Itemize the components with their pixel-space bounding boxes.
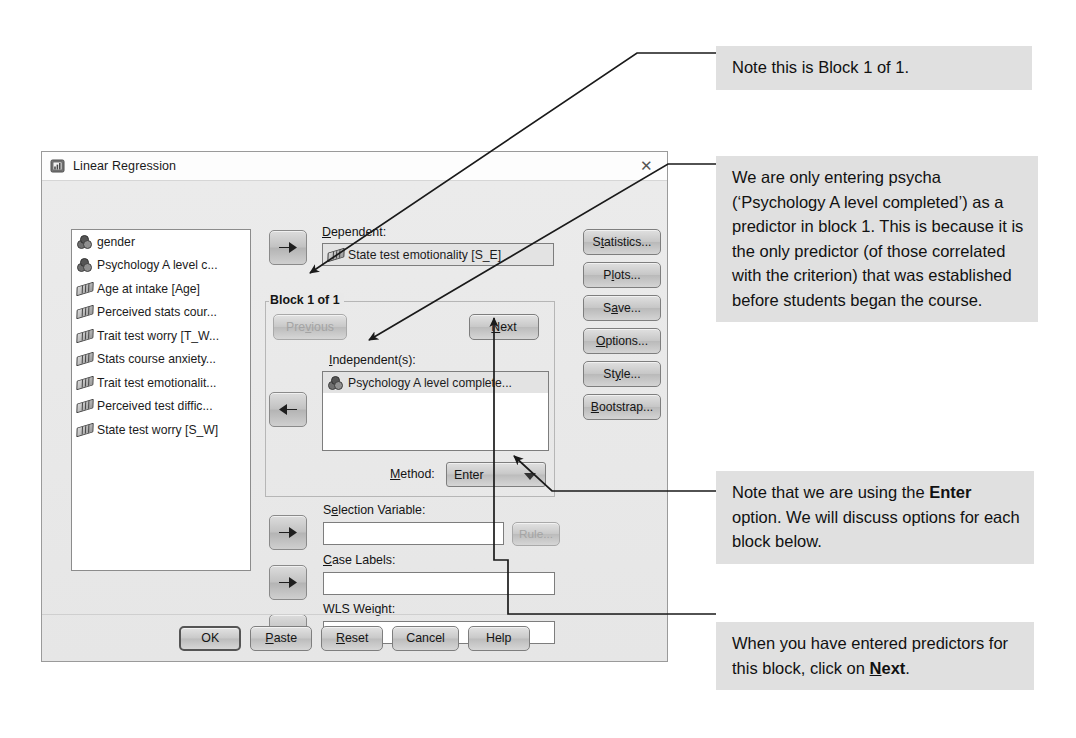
bootstrap-button[interactable]: Bootstrap... [583, 394, 661, 420]
independent-label: Independent(s): [329, 353, 416, 367]
note-enter: Note that we are using the Enter option.… [716, 471, 1034, 564]
list-item[interactable]: Perceived test diffic... [72, 395, 250, 419]
scale-variable-icon [77, 282, 92, 296]
list-item[interactable]: Perceived stats cour... [72, 301, 250, 325]
list-item[interactable]: Trait test worry [T_W... [72, 324, 250, 348]
scale-variable-icon [77, 329, 92, 343]
dependent-field[interactable]: State test emotionality [S_E] [322, 243, 554, 266]
variable-label: State test worry [S_W] [97, 423, 218, 437]
help-button[interactable]: Help [468, 626, 530, 651]
scale-variable-icon [328, 248, 343, 262]
variable-label: Perceived stats cour... [97, 305, 217, 319]
scale-variable-icon [77, 423, 92, 437]
scale-variable-icon [77, 352, 92, 366]
variable-label: Trait test emotionalit... [97, 376, 216, 390]
variable-label: Trait test worry [T_W... [97, 329, 219, 343]
note-next: When you have entered predictors for thi… [716, 622, 1034, 690]
case-labels-label: Case Labels: [323, 553, 395, 567]
spss-dialog-icon [50, 158, 66, 174]
linear-regression-dialog: Linear Regression ✕ gender Psychology A … [41, 151, 668, 662]
scale-variable-icon [77, 399, 92, 413]
independent-value: Psychology A level complete... [348, 376, 512, 390]
variable-label: Psychology A level c... [97, 258, 218, 272]
reset-button[interactable]: Reset [321, 626, 383, 651]
method-select[interactable]: Enter [446, 462, 546, 487]
close-icon[interactable]: ✕ [639, 159, 653, 173]
note-enter-after: option. We will discuss options for each… [732, 508, 1020, 551]
arrow-left-icon [278, 400, 298, 418]
cancel-button[interactable]: Cancel [392, 626, 459, 651]
screenshot-page: Linear Regression ✕ gender Psychology A … [0, 0, 1076, 738]
note-predictor: We are only entering psycha (‘Psychology… [716, 156, 1038, 322]
ok-button[interactable]: OK [179, 626, 241, 651]
nominal-variable-icon [328, 376, 343, 390]
list-item[interactable]: Stats course anxiety... [72, 348, 250, 372]
note-enter-before: Note that we are using the [732, 483, 929, 501]
variable-label: gender [97, 235, 135, 249]
nominal-variable-icon [77, 258, 92, 272]
dialog-title: Linear Regression [73, 159, 176, 173]
statistics-button[interactable]: Statistics... [583, 229, 661, 255]
nominal-variable-icon [77, 235, 92, 249]
style-button[interactable]: Style... [583, 361, 661, 387]
move-to-case-labels-button[interactable] [269, 565, 307, 600]
list-item[interactable]: Trait test emotionalit... [72, 371, 250, 395]
note-enter-bold: Enter [929, 483, 971, 501]
dependent-label: Dependent: [322, 225, 386, 239]
independents-list[interactable]: Psychology A level complete... [322, 371, 549, 451]
selection-variable-input[interactable] [323, 522, 504, 545]
block-group-title: Block 1 of 1 [269, 293, 344, 307]
variable-label: Stats course anxiety... [97, 352, 216, 366]
move-to-dependent-button[interactable] [269, 230, 307, 265]
chevron-down-icon [524, 473, 536, 480]
save-button[interactable]: Save... [583, 295, 661, 321]
arrow-right-icon [278, 573, 298, 591]
dialog-body: gender Psychology A level c... Age at in… [42, 181, 667, 661]
case-labels-input[interactable] [323, 572, 555, 595]
list-item[interactable]: Psychology A level complete... [323, 372, 548, 393]
dialog-bottom-bar: OK Paste Reset Cancel Help [42, 614, 667, 661]
scale-variable-icon [77, 305, 92, 319]
scale-variable-icon [77, 376, 92, 390]
rule-button[interactable]: Rule... [512, 522, 560, 546]
method-value: Enter [454, 468, 484, 482]
dependent-value: State test emotionality [S_E] [348, 248, 501, 262]
variable-label: Perceived test diffic... [97, 399, 213, 413]
dialog-titlebar: Linear Regression ✕ [42, 152, 667, 181]
note-next-accel: N [870, 659, 882, 677]
next-button[interactable]: Next [469, 314, 539, 340]
move-to-selection-variable-button[interactable] [269, 515, 307, 550]
note-next-after: . [905, 659, 910, 677]
selection-variable-label: Selection Variable: [323, 503, 425, 517]
list-item[interactable]: Psychology A level c... [72, 254, 250, 278]
previous-button[interactable]: Previous [273, 314, 347, 340]
method-label: Method: [390, 467, 435, 481]
list-item[interactable]: State test worry [S_W] [72, 418, 250, 442]
source-variable-list[interactable]: gender Psychology A level c... Age at in… [71, 229, 251, 571]
arrow-right-icon [278, 238, 298, 256]
arrow-right-icon [278, 523, 298, 541]
list-item[interactable]: gender [72, 230, 250, 254]
paste-button[interactable]: Paste [250, 626, 312, 651]
note-block: Note this is Block 1 of 1. [716, 46, 1032, 90]
options-button[interactable]: Options... [583, 328, 661, 354]
plots-button[interactable]: Plots... [583, 262, 661, 288]
variable-label: Age at intake [Age] [97, 282, 200, 296]
note-next-bold: ext [881, 659, 905, 677]
list-item[interactable]: Age at intake [Age] [72, 277, 250, 301]
move-back-from-independents-button[interactable] [269, 392, 307, 427]
